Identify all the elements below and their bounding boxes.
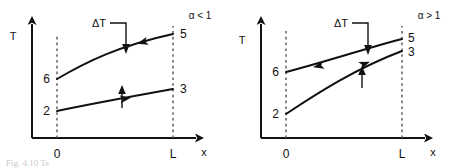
x-axis-label: x xyxy=(430,146,436,158)
point-label-5: 5 xyxy=(408,31,415,45)
chart-panel-alpha-gt-1: T x 0 L 6 2 5 3 ΔT α > 1 xyxy=(229,0,458,168)
delta-t-label: ΔT xyxy=(92,17,106,29)
point-label-6: 6 xyxy=(272,65,279,79)
y-axis-label: T xyxy=(239,34,246,46)
condition-label: α < 1 xyxy=(189,10,212,21)
point-label-6: 6 xyxy=(43,72,50,86)
curve-hot-6-5 xyxy=(57,34,173,79)
axes-group xyxy=(32,24,196,138)
chart-panel-alpha-lt-1: T x 0 L 6 2 5 3 ΔT α < 1 xyxy=(0,0,229,168)
curve-cold-2-3 xyxy=(286,51,402,114)
condition-label: α > 1 xyxy=(418,10,441,21)
point-label-5: 5 xyxy=(180,27,187,41)
y-axis-label: T xyxy=(10,30,17,42)
x-axis-label: x xyxy=(201,146,207,158)
point-label-3: 3 xyxy=(180,82,187,96)
delta-t-label: ΔT xyxy=(334,17,348,29)
delta-t-gap-arrow xyxy=(118,85,126,108)
point-label-2: 2 xyxy=(272,107,279,121)
axes-group xyxy=(261,24,425,138)
point-label-3: 3 xyxy=(408,45,415,59)
x-tick-0: 0 xyxy=(283,147,290,161)
point-label-2: 2 xyxy=(43,104,50,118)
curve-cold-2-3 xyxy=(57,89,173,111)
figure-caption: Fig. 4.10 Te xyxy=(6,158,226,168)
figure-container: T x 0 L 6 2 5 3 ΔT α < 1 xyxy=(0,0,458,168)
x-tick-L: L xyxy=(399,147,406,161)
curve-hot-6-5 xyxy=(286,39,402,72)
